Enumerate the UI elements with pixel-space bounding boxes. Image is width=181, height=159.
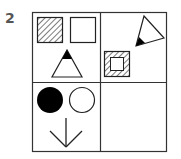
- down-arrow-icon: [50, 118, 82, 147]
- hatched-frame-square-icon: [105, 52, 130, 77]
- triangle-black-tip-icon: [52, 50, 82, 77]
- cell-bottom-left: [37, 87, 95, 147]
- cell-top-right: [105, 16, 165, 77]
- empty-square-icon: [71, 18, 96, 43]
- cell-top-left: [38, 18, 96, 78]
- rotated-triangle-black-tip-icon: [136, 16, 164, 46]
- hatched-square-icon: [38, 18, 63, 43]
- empty-circle-icon: [70, 88, 95, 113]
- puzzle-grid: [0, 0, 181, 159]
- cell-bottom-right-empty: [101, 83, 166, 151]
- filled-circle-icon: [37, 87, 63, 113]
